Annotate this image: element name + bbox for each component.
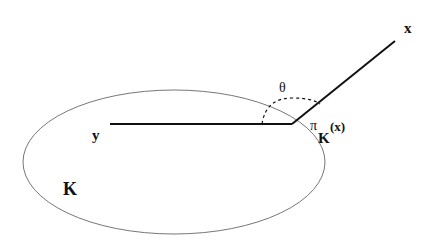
projection-argument: (x): [330, 119, 345, 134]
label-projection: π K (x): [310, 118, 345, 146]
label-y: y: [92, 127, 100, 143]
label-x: x: [404, 20, 412, 36]
label-theta: θ: [279, 80, 286, 95]
projection-subscript: K: [318, 130, 330, 146]
label-k: K: [63, 179, 77, 199]
projection-symbol: π: [310, 118, 317, 133]
convex-set-k: [23, 90, 325, 234]
segment-projection-to-x: [292, 41, 395, 124]
projection-diagram: x y K θ π K (x): [0, 0, 435, 244]
